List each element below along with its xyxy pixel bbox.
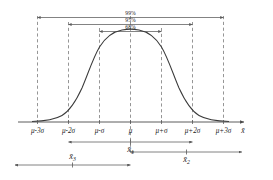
axis-label-plus-1-sigma: μ+σ bbox=[155, 127, 167, 135]
normal-distribution-figure: 99% 95% 68% μ-3σ μ-2σ μ-σ μ μ+σ μ+2σ μ+3… bbox=[0, 0, 273, 180]
axis-label-plus-3-sigma: μ+3σ bbox=[216, 127, 232, 135]
bracket-x-bar-2: x̄2 bbox=[131, 150, 243, 166]
axis-label-plus-2-sigma: μ+2σ bbox=[185, 127, 201, 135]
interval-label-99: 99% bbox=[125, 10, 136, 16]
axis-label-minus-2-sigma: μ-2σ bbox=[62, 127, 76, 135]
axis-tick-labels: μ-3σ μ-2σ μ-σ μ μ+σ μ+2σ μ+3σ x̄ bbox=[31, 126, 245, 135]
bracket-label-x-bar-3-sub: 3 bbox=[72, 156, 76, 162]
distribution-diagram: 99% 95% 68% μ-3σ μ-2σ μ-σ μ μ+σ μ+2σ μ+3… bbox=[0, 0, 273, 180]
axis-label-mu: μ bbox=[129, 127, 133, 135]
interval-label-95: 95% bbox=[125, 17, 136, 23]
bracket-label-x-bar-2-sub: 2 bbox=[187, 159, 190, 165]
bracket-label-x-bar-3: x̄3 bbox=[68, 152, 76, 162]
axis-label-minus-1-sigma: μ-σ bbox=[95, 127, 105, 135]
bracket-label-x-bar-2: x̄2 bbox=[182, 155, 190, 165]
interval-percent-labels: 99% 95% 68% bbox=[125, 10, 136, 30]
axis-end-label-xbar: x̄ bbox=[240, 126, 245, 135]
bracket-label-x-bar-1: x̄1 bbox=[126, 145, 134, 155]
bracket-x-bar-3: x̄3 bbox=[15, 152, 131, 168]
bracket-x-bar-1: x̄1 bbox=[69, 140, 193, 156]
axis-label-minus-3-sigma: μ-3σ bbox=[31, 127, 45, 135]
